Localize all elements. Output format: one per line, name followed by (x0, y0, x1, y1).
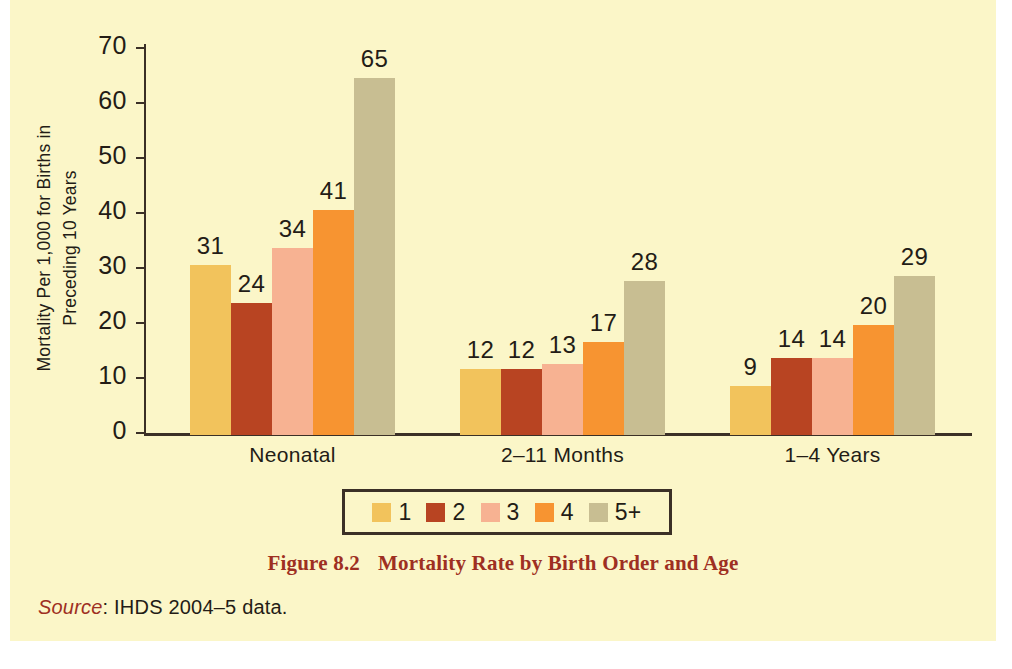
bar (812, 358, 853, 435)
y-axis-tick-mark (136, 102, 145, 104)
bar (231, 303, 272, 435)
bar-column: 9 (730, 46, 771, 435)
bar-column: 14 (812, 46, 853, 435)
bar-column: 12 (501, 46, 542, 435)
figure-caption: Figure 8.2Mortality Rate by Birth Order … (10, 551, 996, 576)
y-axis-tick-mark (136, 322, 145, 324)
source-label: Source (38, 596, 103, 618)
bar-column: 41 (313, 46, 354, 435)
y-axis-title-line2: Preceding 10 Years (57, 83, 83, 413)
bar-column: 65 (354, 46, 395, 435)
legend-label: 1 (398, 499, 411, 526)
y-axis-tick-label: 30 (79, 251, 127, 280)
legend-label: 4 (561, 499, 574, 526)
bar-value-label: 28 (612, 248, 677, 276)
bar-value-label: 65 (342, 45, 407, 73)
legend-item: 4 (535, 499, 574, 526)
legend-label: 5+ (615, 499, 642, 526)
x-axis-category-label: 1–4 Years (690, 443, 975, 467)
y-axis-tick-mark (136, 432, 145, 434)
bar-column: 12 (460, 46, 501, 435)
y-axis-tick-label: 10 (79, 361, 127, 390)
bar (583, 342, 624, 436)
legend-item: 5+ (589, 499, 642, 526)
y-axis-tick-label: 0 (79, 416, 127, 445)
bar (730, 386, 771, 436)
bar (272, 248, 313, 435)
legend-swatch (535, 503, 554, 522)
legend-swatch (426, 503, 445, 522)
bar (853, 325, 894, 435)
bar-value-label: 29 (882, 243, 947, 271)
bar (501, 369, 542, 435)
bar (624, 281, 665, 435)
legend-item: 1 (372, 499, 411, 526)
y-axis-tick-label: 70 (79, 31, 127, 60)
y-axis-title: Mortality Per 1,000 for Births in Preced… (31, 83, 83, 413)
bar-column: 20 (853, 46, 894, 435)
bar-column: 28 (624, 46, 665, 435)
bar-column: 14 (771, 46, 812, 435)
source-note: Source: IHDS 2004–5 data. (38, 596, 288, 619)
chart-plot-area: 010203040506070 Mortality Per 1,000 for … (10, 0, 996, 641)
bar (542, 364, 583, 436)
y-axis-tick-label: 40 (79, 196, 127, 225)
y-axis-tick-mark (136, 267, 145, 269)
y-axis-tick-label: 50 (79, 141, 127, 170)
bar-column: 29 (894, 46, 935, 435)
y-axis-tick-mark (136, 212, 145, 214)
bar-column: 31 (190, 46, 231, 435)
bar-group: 1212131728 (460, 46, 665, 435)
legend-swatch (372, 503, 391, 522)
bar (460, 369, 501, 435)
legend-label: 2 (452, 499, 465, 526)
figure-number: Figure 8.2 (267, 551, 360, 575)
bar (313, 210, 354, 436)
y-axis-tick-label: 20 (79, 306, 127, 335)
bar-column: 13 (542, 46, 583, 435)
bar-column: 17 (583, 46, 624, 435)
bar (894, 276, 935, 436)
y-axis-tick-label: 60 (79, 86, 127, 115)
x-axis-category-label: Neonatal (150, 443, 435, 467)
y-axis-tick-mark (136, 377, 145, 379)
figure-title: Mortality Rate by Birth Order and Age (378, 551, 738, 575)
bar (771, 358, 812, 435)
y-axis-title-line1: Mortality Per 1,000 for Births in (31, 83, 57, 413)
chart-legend: 12345+ (342, 489, 672, 535)
y-axis-tick-mark (136, 47, 145, 49)
bar-column: 34 (272, 46, 313, 435)
figure-page: 010203040506070 Mortality Per 1,000 for … (10, 0, 996, 641)
legend-swatch (481, 503, 500, 522)
bar-group: 3124344165 (190, 46, 395, 435)
y-axis-tick-mark (136, 157, 145, 159)
bar-group: 914142029 (730, 46, 935, 435)
legend-item: 2 (426, 499, 465, 526)
bar (354, 78, 395, 436)
legend-item: 3 (481, 499, 520, 526)
legend-label: 3 (507, 499, 520, 526)
x-axis-category-label: 2–11 Months (420, 443, 705, 467)
source-text: : IHDS 2004–5 data. (103, 596, 288, 618)
legend-swatch (589, 503, 608, 522)
